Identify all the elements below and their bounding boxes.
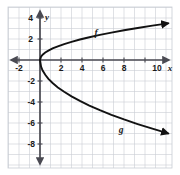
x-tick-label-6: 6 (101, 63, 106, 73)
y-tick-label--2: -2 (27, 76, 35, 86)
y-tick-label-2: 2 (28, 34, 33, 44)
curve-label-g: g (118, 125, 124, 135)
y-tick-label--8: -8 (27, 139, 35, 149)
x-tick-label--2: -2 (15, 63, 23, 73)
x-tick-label-4: 4 (80, 63, 85, 73)
x-tick-label-2: 2 (59, 63, 64, 73)
x-tick-label-10: 10 (152, 63, 162, 73)
x-axis-label: x (167, 63, 173, 73)
coordinate-graph-figure: -2 2 4 6 8 10 x 4 2 -2 -4 -6 -8 y f g (0, 0, 180, 175)
y-tick-label--4: -4 (27, 97, 35, 107)
x-tick-label-8: 8 (122, 63, 127, 73)
y-tick-label--6: -6 (27, 118, 35, 128)
graph-svg: -2 2 4 6 8 10 x 4 2 -2 -4 -6 -8 y f g (0, 0, 180, 175)
y-tick-label-4: 4 (28, 13, 33, 23)
